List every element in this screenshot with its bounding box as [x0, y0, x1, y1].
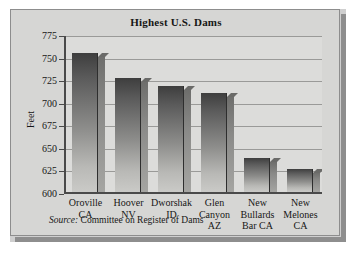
bar	[244, 158, 277, 192]
bar-front-face	[244, 158, 270, 192]
bar	[287, 169, 320, 192]
bar-side-face	[227, 97, 234, 192]
bar-top-face	[98, 53, 109, 57]
bar-side-face	[270, 162, 277, 192]
frame-shadow-right	[341, 14, 346, 242]
y-axis-tick	[59, 194, 64, 195]
source-label: Source:	[49, 215, 78, 225]
y-axis-tick-label: 675	[24, 120, 57, 131]
bar-side-face	[313, 173, 320, 192]
y-axis-tick-label: 775	[24, 30, 57, 41]
bar-top-face	[227, 93, 238, 97]
bar	[201, 93, 234, 192]
y-axis-tick-label: 725	[24, 75, 57, 86]
bar-front-face	[115, 78, 141, 192]
gridline	[66, 36, 322, 37]
chart-card: Highest U.S. Dams Feet 60062565067570072…	[10, 9, 340, 236]
chart-figure: Highest U.S. Dams Feet 60062565067570072…	[10, 9, 346, 242]
bar-side-face	[141, 82, 148, 192]
bar	[158, 86, 191, 192]
bar-top-face	[270, 158, 281, 162]
bar-side-face	[184, 90, 191, 192]
bar	[72, 53, 105, 192]
y-axis-tick-label: 625	[24, 165, 57, 176]
y-axis-tick-label: 750	[24, 53, 57, 64]
chart-title: Highest U.S. Dams	[11, 16, 341, 28]
y-axis-tick-label: 700	[24, 98, 57, 109]
bar-front-face	[72, 53, 98, 192]
y-axis-tick-label: 650	[24, 143, 57, 154]
bar-front-face	[201, 93, 227, 192]
plot-area	[64, 36, 322, 194]
x-axis-label: New Bullards Bar CA	[236, 197, 279, 232]
x-axis-label: New Melones CA	[279, 197, 322, 232]
source-text: Committee on Register of Dams	[81, 215, 204, 225]
bar	[115, 78, 148, 192]
source-note: Source: Committee on Register of Dams	[49, 215, 204, 225]
bar-top-face	[184, 86, 195, 90]
frame-shadow-bottom	[15, 237, 346, 242]
bar-top-face	[313, 169, 323, 173]
bar-front-face	[287, 169, 313, 192]
y-axis-tick-label: 600	[24, 188, 57, 199]
bar-front-face	[158, 86, 184, 192]
bar-side-face	[98, 57, 105, 192]
